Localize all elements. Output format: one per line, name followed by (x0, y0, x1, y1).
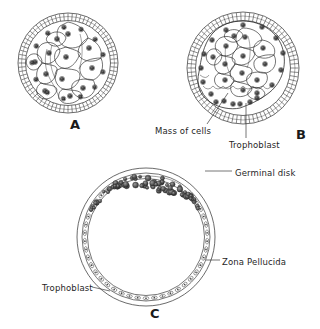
figure-background (0, 0, 320, 329)
label-germinal-disk: Germinal disk (235, 168, 296, 178)
label-trophoblast-b: Trophoblast (229, 140, 280, 150)
embryo-development-figure (0, 0, 320, 329)
label-zona-pellucida: Zona Pellucida (222, 257, 286, 267)
label-trophoblast-c: Trophoblast (42, 283, 93, 293)
panel-letter-c: C (150, 306, 160, 321)
label-mass-of-cells: Mass of cells (155, 126, 211, 136)
panel-letter-a: A (70, 117, 81, 132)
panel-letter-b: B (296, 127, 306, 142)
